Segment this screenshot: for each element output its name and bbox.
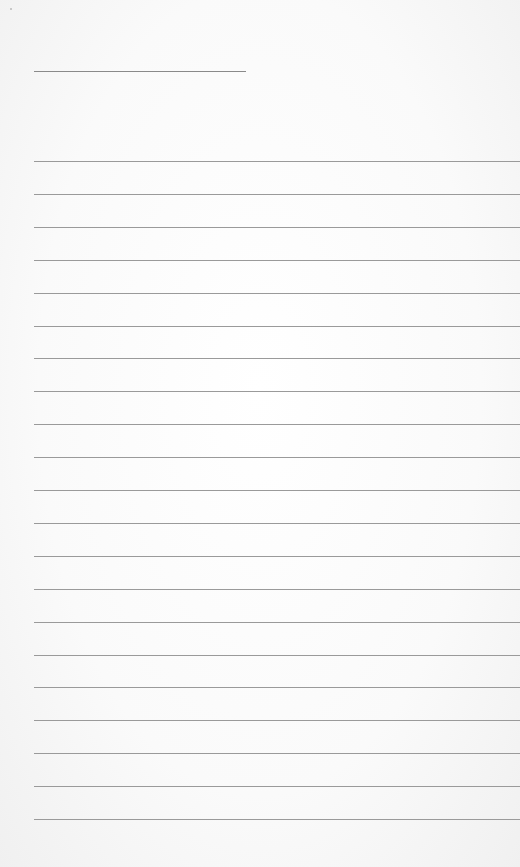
ruled-line	[34, 227, 520, 228]
ruled-line	[34, 622, 520, 623]
ruled-line	[34, 687, 520, 688]
corner-mark	[10, 8, 12, 10]
ruled-line	[34, 819, 520, 820]
ruled-line	[34, 457, 520, 458]
ruled-line	[34, 556, 520, 557]
ruled-line	[34, 391, 520, 392]
ruled-line	[34, 424, 520, 425]
ruled-line	[34, 194, 520, 195]
ruled-line	[34, 589, 520, 590]
ruled-line	[34, 161, 520, 162]
ruled-line	[34, 753, 520, 754]
ruled-line	[34, 720, 520, 721]
ruled-line	[34, 358, 520, 359]
ruled-line	[34, 655, 520, 656]
ruled-line	[34, 293, 520, 294]
ruled-line	[34, 326, 520, 327]
ruled-line	[34, 260, 520, 261]
lined-paper-page	[0, 0, 520, 867]
ruled-line	[34, 523, 520, 524]
ruled-line	[34, 490, 520, 491]
title-line	[34, 71, 246, 72]
ruled-line	[34, 786, 520, 787]
